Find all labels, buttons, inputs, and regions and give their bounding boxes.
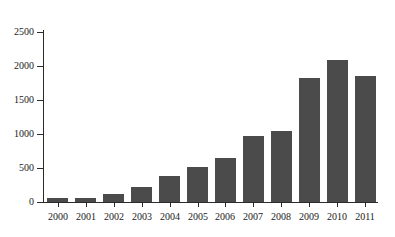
x-axis-tick xyxy=(225,203,226,207)
x-axis-tick xyxy=(337,203,338,207)
bar-chart: 2500200015001000500020002001200220032004… xyxy=(0,0,395,237)
x-axis-line xyxy=(43,202,378,203)
y-axis-tick-label: 1000 xyxy=(0,129,34,139)
x-axis-tick xyxy=(253,203,254,207)
y-axis-tick-label: 2500 xyxy=(0,27,34,37)
y-axis-tick xyxy=(37,66,43,67)
bar-2000[interactable] xyxy=(47,198,68,202)
x-axis-tick xyxy=(365,203,366,207)
bar-2007[interactable] xyxy=(243,136,264,202)
x-axis-tick xyxy=(309,203,310,207)
bar-2008[interactable] xyxy=(271,131,292,202)
bar-2004[interactable] xyxy=(159,176,180,202)
plot-area xyxy=(43,32,378,202)
y-axis-tick xyxy=(37,32,43,33)
y-axis-tick xyxy=(37,134,43,135)
bar-2010[interactable] xyxy=(327,60,348,202)
bar-2001[interactable] xyxy=(75,198,96,202)
bar-2011[interactable] xyxy=(355,76,376,202)
x-axis-tick xyxy=(142,203,143,207)
y-axis-tick-label: 500 xyxy=(0,163,34,173)
y-axis-tick xyxy=(37,168,43,169)
x-axis-tick xyxy=(198,203,199,207)
y-axis-tick xyxy=(37,202,43,203)
x-axis-tick-label: 2011 xyxy=(349,211,381,222)
bar-2006[interactable] xyxy=(215,158,236,202)
bar-2003[interactable] xyxy=(131,187,152,202)
x-axis-tick xyxy=(86,203,87,207)
y-axis-tick-label: 1500 xyxy=(0,95,34,105)
y-axis-tick-label: 0 xyxy=(0,197,34,207)
x-axis-tick xyxy=(58,203,59,207)
x-axis-tick xyxy=(170,203,171,207)
x-axis-tick xyxy=(114,203,115,207)
bar-2009[interactable] xyxy=(299,78,320,202)
y-axis-tick xyxy=(37,100,43,101)
bar-2005[interactable] xyxy=(187,167,208,202)
x-axis-tick xyxy=(281,203,282,207)
bar-2002[interactable] xyxy=(103,194,124,202)
y-axis-tick-label: 2000 xyxy=(0,61,34,71)
